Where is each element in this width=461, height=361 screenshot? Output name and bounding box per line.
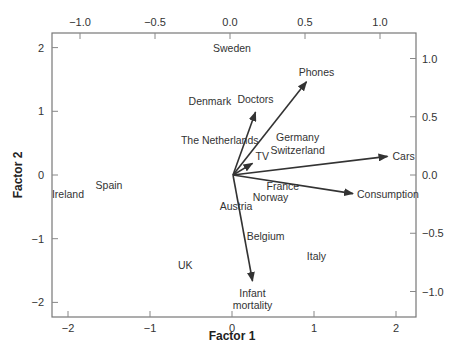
country-label: UK [178,259,193,271]
x-axis-title: Factor 1 [209,329,256,343]
top-tick-label: 1.0 [372,16,387,28]
country-label: Germany [276,131,320,143]
loading-vectors: DoctorsPhonesTVCarsConsumptionInfantmort… [233,66,419,311]
right-tick-label: 0.5 [422,111,437,123]
country-label: Switzerland [270,144,324,156]
vector-label: TV [256,150,269,162]
left-tick-label: 0 [38,169,44,181]
country-label: Austria [220,200,253,212]
top-tick-label: 0.5 [297,16,312,28]
top-tick-label: −1.0 [69,16,91,28]
bottom-tick-label: 2 [393,322,399,334]
vector-label: Doctors [237,93,273,105]
country-label: The Netherlands [181,134,259,146]
top-tick-label: −0.5 [144,16,166,28]
left-tick-label: 1 [38,105,44,117]
country-label: Sweden [213,42,251,54]
biplot-chart: −2−1012 210−1−2 −1.0−0.50.00.51.0 1.00.5… [0,0,461,361]
right-tick-label: 0.0 [422,169,437,181]
vector-arrow [233,175,253,281]
country-label: Denmark [189,95,232,107]
top-axis: −1.0−0.50.00.51.0 [69,16,388,39]
country-label: Italy [307,250,327,262]
bottom-tick-label: −1 [144,322,157,334]
bottom-tick-label: 1 [311,322,317,334]
right-tick-label: −0.5 [422,227,444,239]
vector-label: mortality [233,299,273,311]
left-tick-label: −1 [31,233,44,245]
vector-label: Cars [393,150,415,162]
y-axis-title: Factor 2 [11,151,25,198]
left-axis: 210−1−2 [31,42,58,309]
country-labels: SwedenDenmarkThe NetherlandsGermanySwitz… [52,42,327,271]
vector-label: Consumption [357,188,419,200]
vector-label: Phones [299,66,335,78]
country-label: Ireland [52,188,84,200]
country-label: Norway [253,191,289,203]
country-label: Spain [96,179,123,191]
right-tick-label: −1.0 [422,286,444,298]
bottom-tick-label: −2 [62,322,75,334]
left-tick-label: −2 [31,296,44,308]
right-axis: 1.00.50.0−0.5−1.0 [410,53,444,298]
right-tick-label: 1.0 [422,53,437,65]
vector-label: Infant [239,287,265,299]
left-tick-label: 2 [38,42,44,54]
top-tick-label: 0.0 [222,16,237,28]
country-label: Belgium [247,230,285,242]
